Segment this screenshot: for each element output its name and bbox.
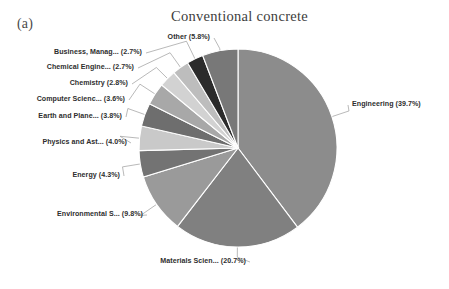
- slice-label: Chemical Engine... (2.7%): [47, 63, 134, 71]
- slice-label: Chemistry (2.8%): [70, 79, 128, 87]
- figure-panel: (a) Conventional concrete Engineering (3…: [0, 0, 449, 289]
- pie-slices: [139, 49, 337, 247]
- slice-label: Computer Scienc... (3.6%): [37, 95, 125, 103]
- slice-label: Materials Scien... (20.7%): [160, 257, 246, 265]
- leader-line: [138, 53, 182, 70]
- slice-label: Energy (4.3%): [72, 171, 120, 179]
- slice-label: Other (5.8%): [168, 33, 210, 41]
- slice-label: Physics and Ast... (4.0%): [42, 138, 127, 146]
- slice-label: Earth and Plane... (3.8%): [38, 112, 122, 120]
- slice-label: Environmental S... (9.8%): [57, 210, 143, 218]
- slice-label: Engineering (39.7%): [352, 100, 421, 108]
- slice-label: Business, Manag... (2.7%): [54, 48, 142, 56]
- leader-line: [146, 41, 196, 61]
